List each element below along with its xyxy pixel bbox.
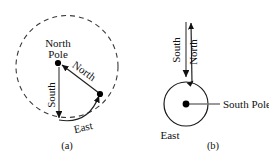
caption-a: (a) <box>61 140 73 152</box>
panel-a: North Pole South North East (a) <box>16 16 118 153</box>
south-pole-dot <box>183 101 190 108</box>
figure-svg: North Pole South North East (a) South N <box>0 0 269 160</box>
caption-b: (b) <box>207 140 220 152</box>
east-label-a: East <box>73 119 94 135</box>
earth-dashed-circle <box>16 16 118 118</box>
panel-b: South North South Pole East (b) <box>161 22 269 152</box>
north-pole-dot <box>55 60 61 66</box>
figure-root: North Pole South North East (a) South N <box>0 0 269 160</box>
east-label-b: East <box>161 129 180 141</box>
north-pole-label-line2: Pole <box>48 48 68 60</box>
south-label-a: South <box>45 82 57 108</box>
north-label-a: North <box>70 58 98 83</box>
south-pole-label-b: South Pole <box>223 98 269 110</box>
north-label-b: North <box>187 39 199 65</box>
south-label-b: South <box>170 37 182 63</box>
surface-point-dot-a <box>97 91 103 97</box>
